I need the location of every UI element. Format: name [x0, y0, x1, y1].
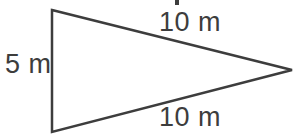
- triangle-figure: 5 m 10 m 10 m: [0, 0, 293, 139]
- clipped-descender-mark-icon: [175, 0, 179, 5]
- side-label-left: 5 m: [5, 51, 52, 78]
- side-label-top: 10 m: [159, 9, 221, 36]
- side-label-bottom: 10 m: [159, 104, 221, 131]
